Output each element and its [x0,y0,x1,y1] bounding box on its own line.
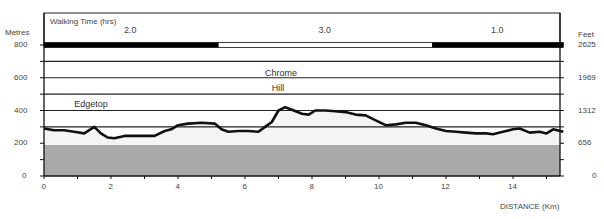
y-tick-label-left-0: 0 [22,171,26,180]
x-tick-label-8: 8 [310,182,314,191]
x-tick-label-12: 12 [441,182,450,191]
walking-time-value-2: 1.0 [491,25,504,35]
x-axis-label: DISTANCE (Km) [500,202,559,211]
y-tick-label-right-2625: 2625 [578,40,596,49]
x-tick-label-10: 10 [374,182,383,191]
x-tick-label-2: 2 [109,182,113,191]
walking-time-segment-0 [44,43,218,48]
x-tick-label-0: 0 [42,182,46,191]
base-band [44,145,560,176]
annotation-edgetop: Edgetop [74,99,108,109]
x-tick-label-14: 14 [508,182,517,191]
walking-time-value-1: 3.0 [318,25,331,35]
y-tick-label-left-600: 600 [14,73,27,82]
y-tick-label-right-656: 656 [578,138,591,147]
walking-time-frame [44,13,560,45]
annotation-hill: Hill [272,83,285,93]
walking-time-segment-1 [218,43,432,48]
walking-time-segment-2 [433,43,564,48]
y-axis-left-label: Metres [5,28,29,37]
y-axis-right-label: Feet [578,30,594,39]
y-tick-label-left-400: 400 [14,106,27,115]
x-tick-label-6: 6 [243,182,247,191]
y-tick-label-right-1969: 1969 [578,73,596,82]
walking-time-value-0: 2.0 [124,25,137,35]
walking-time-label: Walking Time (hrs) [50,17,116,26]
y-tick-label-left-200: 200 [14,138,27,147]
annotation-chrome: Chrome [265,68,297,78]
x-tick-label-4: 4 [176,182,180,191]
y-tick-label-right-0: 0 [592,171,596,180]
y-tick-label-right-1312: 1312 [578,106,596,115]
y-tick-label-left-800: 800 [14,40,27,49]
